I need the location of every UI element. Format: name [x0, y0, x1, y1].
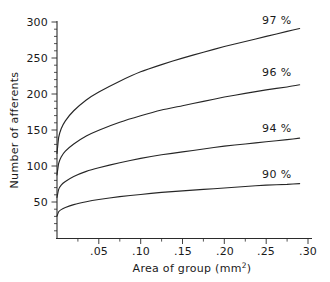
y-tick-label-200: 200	[26, 88, 48, 101]
y-tick-label-250: 250	[26, 52, 48, 65]
y-tick-label-150: 150	[26, 124, 48, 137]
y-tick-label-50: 50	[34, 196, 48, 209]
x-tick-label-015: .15	[174, 245, 192, 258]
series-label-90: 90 %	[262, 168, 292, 181]
x-axis-title: Area of group (mm2)	[133, 261, 252, 276]
x-tick-label-010: .10	[132, 245, 150, 258]
chart-figure: 300 250 200 150 100 50 .05 .10 .15 .20 .…	[0, 0, 330, 282]
y-axis-title: Number of afferents	[8, 72, 21, 189]
series-label-96: 96 %	[262, 66, 292, 79]
x-tick-label-025: .25	[257, 245, 275, 258]
series-label-94: 94 %	[262, 122, 292, 135]
series-label-97: 97 %	[262, 14, 292, 27]
x-tick-label-005: .05	[90, 245, 108, 258]
line-chart-svg: 300 250 200 150 100 50 .05 .10 .15 .20 .…	[0, 0, 330, 282]
x-tick-label-020: .20	[216, 245, 234, 258]
y-tick-label-300: 300	[26, 16, 48, 29]
y-axis-major-ticks	[52, 22, 58, 202]
y-tick-label-100: 100	[26, 160, 48, 173]
series-curve-90	[57, 184, 300, 216]
x-tick-label-030: .30	[299, 245, 317, 258]
